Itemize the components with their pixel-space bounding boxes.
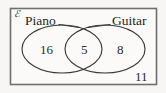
guitar-set-label: Guitar	[112, 14, 147, 28]
count-piano-only: 16	[40, 43, 53, 56]
venn-diagram: ℰ Piano Guitar 16 5 8 11	[0, 0, 166, 93]
count-intersection: 5	[81, 43, 88, 56]
count-guitar-only: 8	[117, 43, 124, 56]
universal-set-symbol: ℰ	[14, 9, 20, 19]
piano-set-label: Piano	[25, 14, 56, 28]
count-outside-sets: 11	[135, 70, 148, 83]
